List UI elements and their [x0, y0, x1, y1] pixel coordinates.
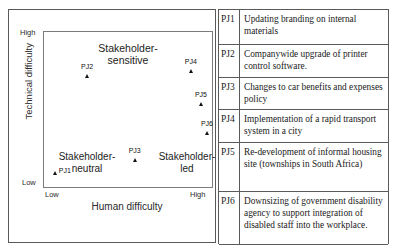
- project-id-cell: PJ3: [219, 78, 240, 109]
- zone-label-stakeholder-led: Stakeholder- led: [152, 151, 222, 174]
- y-tick-high: High: [20, 28, 35, 37]
- data-point-label: PJ6: [201, 120, 213, 127]
- data-point-label: PJ1: [59, 167, 71, 174]
- project-id-cell: PJ5: [219, 143, 240, 191]
- y-axis-title: Technical difficulty: [24, 35, 35, 127]
- data-point-label: PJ3: [129, 147, 141, 154]
- chart-panel: Technical difficulty Human difficulty Hi…: [8, 9, 216, 243]
- data-point-marker: [133, 158, 137, 162]
- data-point-marker: [53, 171, 57, 175]
- table-row: PJ3Changes to car benefits and expenses …: [219, 78, 388, 110]
- data-point-label: PJ2: [81, 63, 93, 70]
- project-id-cell: PJ6: [219, 192, 240, 244]
- project-description-cell: Re-development of informal housing site …: [240, 143, 388, 191]
- figure-root: Technical difficulty Human difficulty Hi…: [0, 0, 397, 251]
- y-tick-low: Low: [22, 178, 36, 187]
- project-description-cell: Companywide upgrade of printer control s…: [240, 45, 388, 77]
- table-row: PJ6Downsizing of government disability a…: [219, 192, 388, 245]
- data-point-marker: [85, 74, 89, 78]
- project-id-cell: PJ2: [219, 45, 240, 77]
- project-id-cell: PJ1: [219, 10, 240, 44]
- data-point-label: PJ4: [185, 58, 197, 65]
- table-row: PJ1Updating branding on internal materia…: [219, 10, 388, 45]
- project-list-table: PJ1Updating branding on internal materia…: [218, 9, 389, 244]
- x-tick-high: High: [190, 190, 205, 199]
- project-description-cell: Implementation of a rapid transport syst…: [240, 110, 388, 142]
- data-point-label: PJ5: [195, 91, 207, 98]
- table-row: PJ4Implementation of a rapid transport s…: [219, 110, 388, 143]
- project-description-cell: Changes to car benefits and expenses pol…: [240, 78, 388, 109]
- data-point-marker: [189, 69, 193, 73]
- data-point-marker: [199, 102, 203, 106]
- project-id-cell: PJ4: [219, 110, 240, 142]
- x-tick-low: Low: [45, 190, 59, 199]
- data-point-marker: [205, 131, 209, 135]
- table-row: PJ2Companywide upgrade of printer contro…: [219, 45, 388, 78]
- table-row: PJ5Re-development of informal housing si…: [219, 143, 388, 192]
- project-description-cell: Downsizing of government disability agen…: [240, 192, 388, 244]
- project-description-cell: Updating branding on internal materials: [240, 10, 388, 44]
- x-axis-title: Human difficulty: [57, 201, 197, 212]
